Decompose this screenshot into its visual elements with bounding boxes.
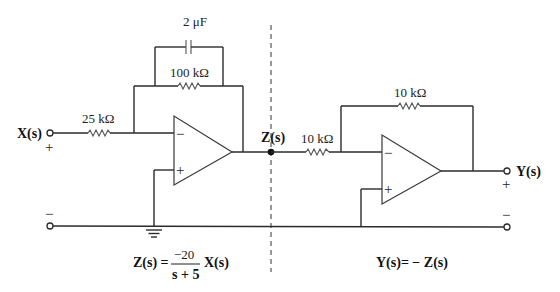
label-resistor-25k: 25 kΩ <box>82 111 114 126</box>
output-terminal-positive <box>504 168 510 174</box>
resistor-25k <box>88 130 110 136</box>
label-input-plus: + <box>45 139 53 155</box>
equation-y: Y(s)= − Z(s) <box>376 255 448 271</box>
input-terminal-positive <box>47 130 53 136</box>
label-output-y: Y(s) <box>516 164 541 180</box>
opamp2-plus-label: + <box>384 181 392 197</box>
label-output-plus: + <box>502 176 510 192</box>
label-output-minus: − <box>502 207 510 223</box>
output-terminal-negative <box>504 224 510 230</box>
equation-z: Z(s) = −20 s + 5 X(s) <box>133 247 229 282</box>
label-resistor-10k-input: 10 kΩ <box>301 131 333 146</box>
label-node-z: Z(s) <box>261 130 285 146</box>
resistor-100k <box>178 83 200 89</box>
svg-text:Z(s) =: Z(s) = <box>133 255 169 271</box>
resistor-10k-input <box>306 149 329 155</box>
circuit-diagram: 2 μF 100 kΩ 25 kΩ X(s) + − − + Z(s) 10 k… <box>0 0 560 292</box>
label-capacitor: 2 μF <box>183 14 207 29</box>
svg-text:X(s): X(s) <box>204 255 229 271</box>
resistor-10k-feedback <box>398 103 420 109</box>
label-input-minus: − <box>45 206 53 222</box>
capacitor-2uf <box>186 40 191 54</box>
opamp1-plus-label: + <box>176 162 184 178</box>
svg-text:s + 5: s + 5 <box>172 267 199 282</box>
opamp1-minus-label: − <box>176 126 184 142</box>
label-input-x: X(s) <box>17 126 42 142</box>
label-resistor-100k: 100 kΩ <box>170 65 209 80</box>
ground-icon <box>146 230 162 237</box>
input-terminal-negative <box>47 223 53 229</box>
opamp2-minus-label: − <box>384 145 392 161</box>
label-resistor-10k-feedback: 10 kΩ <box>394 85 426 100</box>
svg-text:−20: −20 <box>174 247 194 262</box>
